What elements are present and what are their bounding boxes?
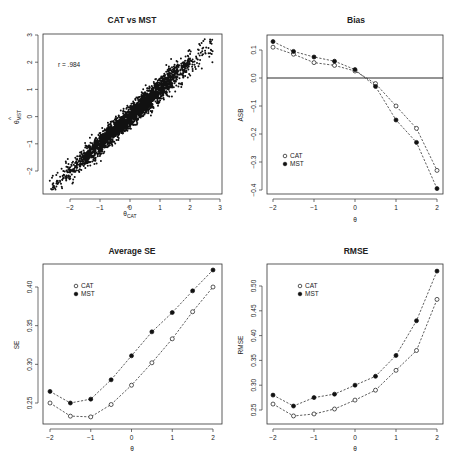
panel-title: CAT vs MST [108,15,158,25]
y-tick-label: −0.2 [250,127,257,140]
data-point-mst [211,268,215,272]
data-point-cat [394,104,398,108]
chart-canvas: CAT vs MST −2−10123−2−10123 r = .984 θCA… [0,0,458,464]
x-tick-label: −1 [87,434,95,441]
average-se-panel: Average SE −2−10120.250.300.350.40 θ SE … [13,246,222,452]
data-point-cat [130,383,134,387]
y-axis-label: θMST ^ [7,110,22,124]
data-point-mst [130,354,134,358]
data-point-cat [415,126,419,130]
legend: CATMST [298,282,319,297]
legend-marker-cat [298,284,302,288]
x-tick-label: 1 [158,204,162,211]
data-point-mst [89,397,93,401]
x-tick-label: −2 [269,204,277,211]
x-tick-label: −2 [269,434,277,441]
data-point-mst [435,187,439,191]
data-point-cat [333,63,337,67]
data-point-cat [68,414,72,418]
y-tick-label: 0.45 [250,304,257,317]
data-point-mst [353,68,357,72]
data-point-mst [170,311,174,315]
axes: −2−1012−0.4−0.3−0.2−0.10.00.1 [250,45,439,211]
data-point-mst [68,401,72,405]
data-point-mst [394,118,398,122]
legend-label-cat: CAT [81,282,94,289]
y-tick-label: −0.1 [250,99,257,112]
legend-marker-mst [74,292,78,296]
data-point-cat [394,368,398,372]
data-point-mst [333,59,337,63]
y-axis-label: ASB [237,108,244,121]
plot-frame [267,35,443,194]
legend-marker-cat [74,284,78,288]
data-point-mst [48,389,52,393]
data-point-mst [271,40,275,44]
y-tick-label: 0.25 [250,403,257,416]
x-axis-label: θCAT ^ [123,204,136,219]
x-tick-label: 1 [394,204,398,211]
y-tick-label: 0.0 [250,73,257,82]
legend-marker-mst [298,292,302,296]
figure: CAT vs MST −2−10123−2−10123 r = .984 θCA… [0,0,458,464]
axes: −2−10120.250.300.350.400.450.50 [250,279,439,441]
svg-text:θMST: θMST [13,110,22,124]
data-point-cat [170,337,174,341]
legend: CATMST [283,152,304,167]
y-tick-label: 2 [26,60,33,64]
data-point-cat [333,407,337,411]
legend-label-cat: CAT [290,152,303,159]
data-point-mst [271,393,275,397]
legend: CATMST [74,282,95,297]
data-point-mst [109,378,113,382]
legend-label-mst: MST [290,160,304,167]
x-tick-label: 2 [211,434,215,441]
data-point-cat [435,168,439,172]
x-tick-label: 2 [435,434,439,441]
data-point-mst [415,140,419,144]
series-lines [271,269,439,418]
x-tick-label: 0 [353,434,357,441]
plot-frame [43,264,222,424]
legend-marker-cat [283,154,287,158]
y-tick-label: −0.3 [250,155,257,168]
bias-panel: Bias −2−1012−0.4−0.3−0.2−0.10.00.1 θ ASB… [237,15,443,223]
x-tick-label: −1 [96,204,104,211]
svg-text:θCAT: θCAT [123,210,136,219]
data-point-cat [211,285,215,289]
y-tick-label: −1 [26,140,33,148]
data-point-cat [292,414,296,418]
x-axis-label: θ [130,445,134,452]
data-point-cat [353,398,357,402]
rmse-panel: RMSE −2−10120.250.300.350.400.450.50 θ R… [237,246,443,452]
x-tick-label: 0 [353,204,357,211]
data-point-mst [191,289,195,293]
x-tick-label: 1 [170,434,174,441]
y-tick-label: 0.35 [26,319,33,332]
x-tick-label: 2 [435,204,439,211]
data-point-mst [394,353,398,357]
data-point-mst [353,383,357,387]
y-tick-label: 0.1 [250,45,257,54]
series-line-cat [50,287,213,417]
scatter-panel: CAT vs MST −2−10123−2−10123 r = .984 θCA… [7,15,222,219]
data-point-mst [312,396,316,400]
y-tick-label: 0.40 [250,329,257,342]
svg-text:^: ^ [7,116,14,120]
legend-label-mst: MST [305,290,319,297]
correlation-annotation: r = .984 [58,61,81,68]
data-point-cat [374,388,378,392]
data-point-cat [312,412,316,416]
data-point-mst [435,269,439,273]
data-point-mst [292,49,296,53]
x-tick-label: −2 [46,434,54,441]
y-axis-label: SE [13,340,20,349]
data-point-cat [415,348,419,352]
series-lines [48,268,215,419]
data-point-mst [374,84,378,88]
y-tick-label: −0.4 [250,183,257,196]
x-tick-label: −1 [310,434,318,441]
legend-marker-mst [283,162,287,166]
panel-title: Bias [347,15,365,25]
y-tick-label: −2 [26,167,33,175]
